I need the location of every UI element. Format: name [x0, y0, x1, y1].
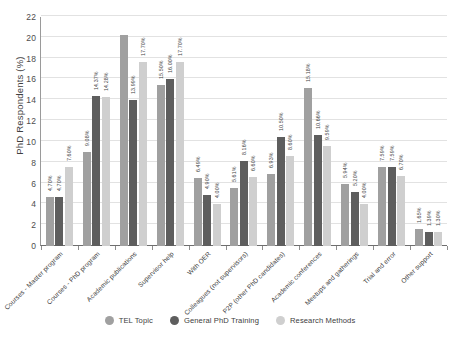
- bar: 16.00%: [166, 79, 174, 246]
- x-axis-tick-label: Other support: [315, 250, 433, 343]
- bar: 14.37%: [92, 96, 100, 246]
- bar: 4.90%: [203, 195, 211, 246]
- bar-value-label: 8.60%: [288, 135, 294, 151]
- y-axis-tick-label: 20: [10, 33, 36, 43]
- y-axis-tick-label: 0: [10, 241, 36, 251]
- x-axis-tick-label: Academic conferences: [205, 250, 323, 343]
- legend-item[interactable]: Research Methods: [276, 316, 355, 325]
- y-axis-tick-label: 22: [10, 12, 36, 22]
- bar: 15.50%: [157, 85, 165, 246]
- bar: 6.70%: [397, 176, 405, 246]
- bar: 4.70%: [55, 197, 63, 246]
- bar-chart: PhD Respondents (%) 0246810121416182022 …: [0, 0, 460, 343]
- bar: 5.94%: [341, 184, 349, 246]
- bar: 1.65%: [415, 229, 423, 246]
- x-axis-tick-label: Colleagues (not supervisors): [131, 250, 249, 343]
- bar: 13.99%: [129, 100, 137, 246]
- bar-value-label: 4.00%: [214, 183, 220, 199]
- bar: 7.59%: [378, 167, 386, 246]
- bar-group: 15.18%10.66%9.59%: [299, 17, 336, 246]
- y-axis-tick-label: 14: [10, 95, 36, 105]
- bar: 1.39%: [425, 232, 433, 246]
- x-axis-tick-label: Academic publications: [20, 250, 138, 343]
- x-axis-tick-label: P2P (other PhD candidates): [168, 250, 286, 343]
- legend-item[interactable]: TEL Topic: [105, 316, 153, 325]
- bar-group: 6.49%4.90%4.00%: [189, 17, 226, 246]
- bar-group: 5.94%5.20%4.00%: [336, 17, 373, 246]
- bar-value-label: 15.50%: [158, 60, 164, 79]
- bar-value-label: 10.50%: [278, 112, 284, 131]
- y-axis-tick-label: 6: [10, 179, 36, 189]
- legend-swatch-icon: [276, 316, 285, 325]
- bar-group: 15.50%16.00%17.70%: [152, 17, 189, 246]
- bar-value-label: 6.60%: [251, 156, 257, 172]
- legend-item[interactable]: General PhD Training: [170, 316, 259, 325]
- y-axis-tick-label: 10: [10, 137, 36, 147]
- bar-value-label: 10.66%: [315, 110, 321, 129]
- bar-value-label: 4.90%: [204, 173, 210, 189]
- bar: 4.00%: [213, 204, 221, 246]
- bar: 7.59%: [388, 167, 396, 246]
- y-axis-tick-label: 4: [10, 199, 36, 209]
- bar: 4.00%: [360, 204, 368, 246]
- bar-value-label: 7.59%: [389, 145, 395, 161]
- bar-value-label: 17.70%: [140, 37, 146, 56]
- bar-value-label: 16.00%: [167, 55, 173, 74]
- bar-value-label: 17.70%: [177, 37, 183, 56]
- bar-group: 7.59%7.59%6.70%: [373, 17, 410, 246]
- x-axis-tick-label: Trial and error: [278, 250, 396, 343]
- bar-group: 4.70%4.70%7.60%: [41, 17, 78, 246]
- bar: 5.20%: [351, 192, 359, 246]
- bar-value-label: 6.93%: [269, 152, 275, 168]
- legend-label: TEL Topic: [119, 316, 153, 325]
- bar-value-label: 5.20%: [352, 170, 358, 186]
- bar-group: 9.08%14.37%14.28%: [78, 17, 115, 246]
- bar-value-label: 7.60%: [66, 145, 72, 161]
- bar-group: 6.93%10.50%8.60%: [262, 17, 299, 246]
- bar: 17.70%: [139, 62, 147, 246]
- bar-group: 5.61%8.16%6.60%: [226, 17, 263, 246]
- y-axis-tick-labels: 0246810121416182022: [6, 17, 36, 246]
- bar-value-label: 13.99%: [130, 76, 136, 95]
- bar-value-label: 7.59%: [379, 145, 385, 161]
- bar: 9.59%: [323, 146, 331, 246]
- bar: 1.30%: [434, 232, 442, 246]
- y-axis-tick-label: 8: [10, 158, 36, 168]
- bar-value-label: 14.37%: [94, 72, 100, 91]
- x-axis-tick-label: Supervisor help: [57, 250, 175, 343]
- bar: 10.66%: [314, 135, 322, 246]
- bar-value-label: 4.00%: [361, 183, 367, 199]
- bar-value-label: 5.94%: [342, 163, 348, 179]
- legend-label: General PhD Training: [184, 316, 259, 325]
- x-axis-tick-label: Meetups and gatherings: [242, 250, 360, 343]
- bar-value-label: 1.39%: [426, 210, 432, 226]
- bar: 8.16%: [240, 161, 248, 246]
- bar: 6.60%: [249, 177, 257, 246]
- bar-value-label: 15.18%: [306, 63, 312, 82]
- y-axis-tick-label: 18: [10, 54, 36, 64]
- bar-group: 1.65%1.39%1.30%: [410, 17, 447, 246]
- bar: 7.60%: [65, 167, 73, 246]
- x-axis-tick-label: With OER: [94, 250, 212, 343]
- x-axis-tick-labels: Courses - Master programCourses - PhD pr…: [41, 250, 451, 310]
- bar-value-label: 9.08%: [84, 130, 90, 146]
- bar-value-label: 6.49%: [195, 157, 201, 173]
- bar: 17.70%: [176, 62, 184, 246]
- bar: 6.93%: [267, 174, 275, 246]
- bar: 15.18%: [304, 88, 312, 246]
- bar: 9.08%: [83, 152, 91, 247]
- bars-layer: 4.70%4.70%7.60%9.08%14.37%14.28%13.99%17…: [41, 17, 447, 246]
- bar-value-label: 9.59%: [325, 125, 331, 141]
- bar-value-label: 14.28%: [103, 73, 109, 92]
- y-axis-tick-label: 2: [10, 220, 36, 230]
- y-axis-tick-label: 16: [10, 74, 36, 84]
- legend-label: Research Methods: [290, 316, 355, 325]
- bar-value-label: 1.30%: [435, 211, 441, 227]
- bar: 5.61%: [230, 188, 238, 246]
- chart-legend: TEL TopicGeneral PhD TrainingResearch Me…: [0, 316, 460, 325]
- legend-swatch-icon: [105, 316, 114, 325]
- bar: 10.50%: [277, 137, 285, 246]
- bar: 8.60%: [286, 156, 294, 246]
- bar: [120, 35, 128, 246]
- bar-group: 13.99%17.70%: [115, 17, 152, 246]
